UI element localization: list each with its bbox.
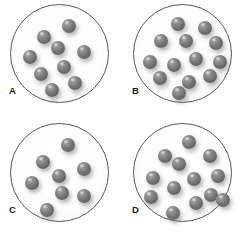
- particle-sphere: [182, 75, 196, 89]
- particle-sphere: [40, 203, 54, 217]
- particle-sphere: [172, 157, 186, 171]
- particle-sphere: [34, 67, 48, 81]
- panel-label-a: A: [9, 86, 16, 96]
- particle-sphere: [77, 189, 91, 203]
- panel-d: D: [123, 119, 245, 238]
- particle-sphere: [57, 60, 71, 74]
- particle-sphere: [77, 162, 91, 176]
- particle-sphere: [77, 45, 91, 59]
- particle-sphere: [166, 206, 180, 220]
- vessel-circle-a: [10, 4, 109, 103]
- particle-sphere: [203, 149, 217, 163]
- panel-a: A: [0, 0, 122, 119]
- vessel-circle-d: [133, 123, 232, 222]
- particle-sphere: [62, 19, 76, 33]
- particle-sphere: [198, 21, 212, 35]
- particle-sphere: [36, 155, 50, 169]
- particle-sphere: [55, 186, 69, 200]
- panel-label-b: B: [132, 86, 139, 96]
- particle-sphere: [216, 193, 230, 207]
- particle-sphere: [211, 169, 225, 183]
- particle-sphere: [146, 171, 160, 185]
- particle-sphere: [61, 138, 75, 152]
- vessel-circle-c: [10, 123, 109, 222]
- particle-sphere: [171, 17, 185, 31]
- particle-diagram-figure: A B C D: [0, 0, 245, 238]
- panel-b: B: [123, 0, 245, 119]
- particle-sphere: [158, 149, 172, 163]
- vessel-circle-b: [133, 4, 232, 103]
- particle-sphere: [23, 50, 37, 64]
- particle-sphere: [187, 172, 201, 186]
- particle-sphere: [203, 69, 217, 83]
- particle-sphere: [154, 34, 168, 48]
- particle-sphere: [182, 135, 196, 149]
- particle-sphere: [51, 41, 65, 55]
- particle-sphere: [52, 169, 66, 183]
- particle-sphere: [167, 58, 181, 72]
- panel-c: C: [0, 119, 122, 238]
- particle-sphere: [213, 55, 227, 69]
- particle-sphere: [172, 86, 186, 100]
- particle-sphere: [189, 196, 203, 210]
- particle-sphere: [153, 71, 167, 85]
- particle-sphere: [68, 76, 82, 90]
- panel-label-d: D: [132, 205, 139, 215]
- particle-sphere: [37, 30, 51, 44]
- particle-sphere: [143, 55, 157, 69]
- particle-sphere: [144, 190, 158, 204]
- particle-sphere: [25, 176, 39, 190]
- particle-sphere: [45, 83, 59, 97]
- particle-sphere: [179, 34, 193, 48]
- particle-sphere: [167, 181, 181, 195]
- panel-label-c: C: [9, 205, 16, 215]
- particle-sphere: [189, 52, 203, 66]
- particle-sphere: [209, 36, 223, 50]
